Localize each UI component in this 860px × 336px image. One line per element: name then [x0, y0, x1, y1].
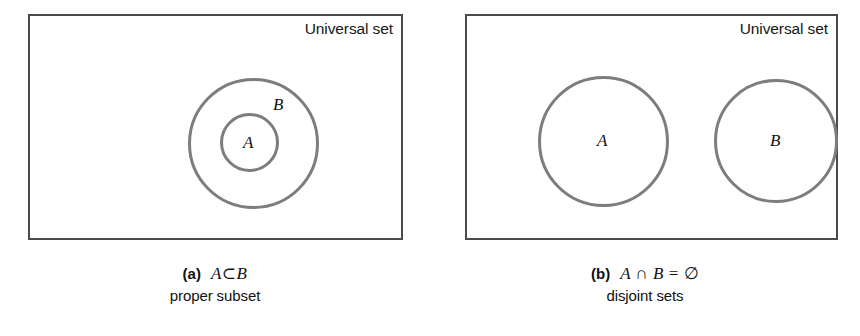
caption-a-rhs: B: [237, 264, 248, 283]
caption-a-lhs: A: [211, 264, 222, 283]
set-label-a: A: [243, 133, 253, 153]
venn-diagram-figure: Universal set A B (a)A⊂B proper subset U…: [0, 0, 860, 336]
caption-a-operator: ⊂: [222, 264, 237, 283]
set-label-b: B: [273, 95, 283, 115]
caption-a: (a)A⊂B proper subset: [0, 263, 436, 304]
caption-b-equals: =: [669, 264, 679, 283]
caption-b-line1: (b)A ∩ B = ∅: [430, 263, 860, 284]
universal-set-label-b: Universal set: [740, 20, 828, 38]
caption-a-line1: (a)A⊂B: [0, 263, 430, 284]
universal-set-rectangle-b: Universal set A B: [465, 14, 838, 240]
universal-set-label-a: Universal set: [305, 20, 393, 38]
caption-b-description: disjoint sets: [430, 287, 860, 304]
caption-b-lhs: A: [620, 264, 631, 283]
set-label-a: A: [597, 131, 607, 151]
caption-b-rhs: B: [653, 264, 664, 283]
set-label-b: B: [770, 131, 780, 151]
universal-set-rectangle-a: Universal set A B: [28, 14, 403, 240]
panel-b-disjoint-sets: Universal set A B (b)A ∩ B = ∅ disjoint …: [430, 0, 860, 336]
caption-a-tag: (a): [183, 265, 201, 282]
caption-b-operator: ∩: [635, 264, 648, 283]
panel-a-proper-subset: Universal set A B (a)A⊂B proper subset: [0, 0, 430, 336]
caption-b-expression: A ∩ B = ∅: [610, 264, 699, 283]
caption-b-tag: (b): [591, 265, 610, 282]
caption-a-description: proper subset: [0, 287, 430, 304]
caption-a-expression: A⊂B: [201, 264, 248, 283]
caption-b: (b)A ∩ B = ∅ disjoint sets: [430, 263, 860, 304]
caption-b-empty-set: ∅: [684, 264, 700, 283]
